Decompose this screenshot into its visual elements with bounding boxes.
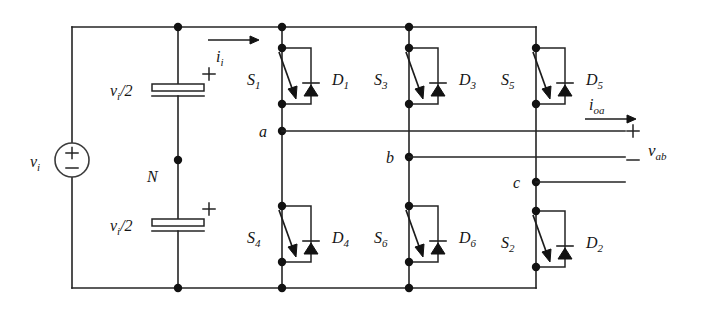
leg-c-lower-diode-label: D2 bbox=[585, 234, 604, 254]
leg-b-bottom-rail-node bbox=[405, 284, 413, 292]
source-label: vi bbox=[30, 153, 40, 173]
leg-b-lower-switch-arrowhead bbox=[415, 244, 424, 257]
vab-plus-sign bbox=[627, 125, 639, 137]
leg-c-lower-switch-top-node bbox=[532, 207, 540, 215]
leg-c-lower-switch-blade bbox=[533, 215, 547, 254]
leg-a-upper-switch-top-node bbox=[278, 44, 286, 52]
leg-a-lower-switch-blade bbox=[279, 210, 293, 249]
leg-b-top-rail-node bbox=[405, 23, 413, 31]
cap2-top-plate bbox=[152, 219, 204, 226]
phase-a-label: a bbox=[259, 123, 267, 140]
neutral-node-dot bbox=[174, 156, 182, 164]
cap2-plus-sign bbox=[203, 203, 215, 215]
leg-a-upper-switch-arrowhead bbox=[288, 86, 297, 99]
leg-b-lower-switch-blade bbox=[406, 210, 420, 249]
output-current-label: ioa bbox=[589, 96, 605, 116]
leg-b-lower-switch-bottom-node bbox=[405, 258, 413, 266]
leg-c-lower-switch-bottom-node bbox=[532, 263, 540, 271]
leg-b-upper-switch-arrowhead bbox=[415, 86, 424, 99]
leg-a-upper-switch-blade bbox=[279, 52, 293, 91]
leg-c-upper-diode-triangle bbox=[558, 85, 572, 96]
input-current-label: ii bbox=[216, 48, 224, 68]
leg-a-lower-switch-top-node bbox=[278, 202, 286, 210]
cap2-label: vi/2 bbox=[110, 217, 133, 237]
leg-c-lower-switch-label: S2 bbox=[501, 234, 515, 254]
cap-top-node-dot bbox=[174, 23, 182, 31]
output-current-arrow bbox=[585, 115, 636, 123]
leg-b-lower-switch-label: S6 bbox=[374, 229, 388, 249]
leg-b-lower-diode-triangle bbox=[431, 243, 445, 254]
dc-voltage-source bbox=[55, 143, 89, 177]
leg-c-upper-switch-bottom-node bbox=[532, 100, 540, 108]
cap-bottom-node-dot bbox=[174, 284, 182, 292]
schematic-canvas: vi vi/2 vi/2 N ii bbox=[0, 0, 705, 309]
leg-c-upper-switch-top-node bbox=[532, 44, 540, 52]
leg-a-upper-diode-label: D1 bbox=[331, 71, 349, 91]
cap1-label: vi/2 bbox=[110, 82, 133, 102]
leg-b-lower-switch-top-node bbox=[405, 202, 413, 210]
leg-b-upper-switch-top-node bbox=[405, 44, 413, 52]
circuit-diagram-figure: vi vi/2 vi/2 N ii bbox=[0, 0, 705, 309]
leg-a-upper-switch-bottom-node bbox=[278, 100, 286, 108]
leg-c-lower-switch-arrowhead bbox=[542, 249, 551, 262]
leg-a-lower-diode-triangle bbox=[304, 243, 318, 254]
leg-b-upper-switch-bottom-node bbox=[405, 100, 413, 108]
output-phase-lines bbox=[282, 131, 625, 182]
cap1-top-plate bbox=[152, 84, 204, 91]
capacitor-polarity-marks bbox=[203, 68, 215, 215]
leg-b-upper-diode-triangle bbox=[431, 85, 445, 96]
leg-c-upper-switch-label: S5 bbox=[501, 71, 515, 91]
leg-a-bottom-rail-node bbox=[278, 284, 286, 292]
output-voltage-label: vab bbox=[648, 141, 667, 162]
neutral-node-label: N bbox=[146, 168, 159, 185]
leg-c-lower-diode-triangle bbox=[558, 248, 572, 259]
leg-a-lower-switch-arrowhead bbox=[288, 244, 297, 257]
leg-b-upper-switch-label: S3 bbox=[374, 71, 388, 91]
phase-b-label: b bbox=[386, 149, 394, 166]
leg-a-upper-switch-label: S1 bbox=[247, 71, 261, 91]
leg-a-lower-switch-label: S4 bbox=[247, 229, 261, 249]
phase-c-label: c bbox=[513, 174, 520, 191]
leg-a-upper-diode-triangle bbox=[304, 85, 318, 96]
input-current-arrow bbox=[208, 36, 259, 44]
leg-a-lower-diode-label: D4 bbox=[331, 229, 350, 249]
leg-b-upper-diode-label: D3 bbox=[458, 71, 477, 91]
leg-a-top-rail-node bbox=[278, 23, 286, 31]
leg-a bbox=[278, 23, 319, 292]
leg-c-upper-switch-blade bbox=[533, 52, 547, 91]
leg-a-lower-switch-bottom-node bbox=[278, 258, 286, 266]
leg-c-upper-diode-label: D5 bbox=[585, 71, 604, 91]
cap1-plus-sign bbox=[203, 68, 215, 80]
leg-b-lower-diode-label: D6 bbox=[458, 229, 477, 249]
output-voltage-polarity bbox=[627, 125, 639, 160]
leg-c-upper-switch-arrowhead bbox=[542, 86, 551, 99]
leg-b-upper-switch-blade bbox=[406, 52, 420, 91]
